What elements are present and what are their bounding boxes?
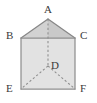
vertex-label-d: D [51, 60, 59, 71]
vertex-label-e: E [6, 83, 13, 94]
geometry-figure: A B C D E F [0, 0, 97, 103]
vertex-label-c: C [80, 30, 87, 41]
vertex-label-b: B [6, 30, 13, 41]
vertex-label-a: A [44, 4, 52, 15]
vertex-label-f: F [80, 83, 86, 94]
